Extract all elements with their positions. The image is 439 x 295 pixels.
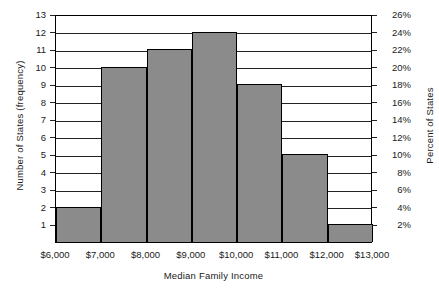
y-axis-right-tick-mark <box>372 102 377 103</box>
y-axis-left-tick-mark <box>50 172 55 173</box>
y-axis-left-tick-mark <box>50 102 55 103</box>
y-axis-left-tick-mark <box>50 225 55 226</box>
histogram-bar <box>282 154 327 242</box>
histogram-bar <box>101 67 146 242</box>
y-axis-right-title: Percent of States <box>424 3 438 248</box>
y-axis-left-tick-label: 2 <box>4 202 46 214</box>
y-axis-left-tick-label: 9 <box>4 79 46 91</box>
y-axis-left-tick-mark <box>50 15 55 16</box>
y-axis-left-tick-mark <box>50 50 55 51</box>
histogram-bar <box>147 49 192 242</box>
y-axis-left-tick-mark <box>50 85 55 86</box>
y-axis-left-tick-label: 6 <box>4 132 46 144</box>
y-axis-left-tick-mark <box>50 120 55 121</box>
y-axis-left-tick-label: 10 <box>4 62 46 74</box>
histogram-chart: Number of States (frequency) Percent of … <box>0 0 439 295</box>
y-axis-left-tick-mark <box>50 67 55 68</box>
histogram-bar <box>328 224 373 242</box>
y-axis-right-tick-label: 4% <box>377 202 411 214</box>
y-axis-right-tick-label: 16% <box>377 97 411 109</box>
histogram-bar <box>192 32 237 242</box>
y-axis-right-tick-label: 10% <box>377 149 411 161</box>
plot-inner <box>56 16 371 242</box>
y-axis-right-tick-label: 12% <box>377 132 411 144</box>
y-axis-left-tick-label: 11 <box>4 44 46 56</box>
y-axis-left-tick-label: 3 <box>4 184 46 196</box>
y-axis-right-tick-mark <box>372 207 377 208</box>
y-axis-right-tick-mark <box>372 225 377 226</box>
y-axis-left-tick-mark <box>50 155 55 156</box>
y-axis-right-tick-label: 14% <box>377 114 411 126</box>
y-axis-left-tick-label: 7 <box>4 114 46 126</box>
y-axis-left-tick-label: 4 <box>4 167 46 179</box>
histogram-bar <box>56 207 101 242</box>
y-axis-right-tick-mark <box>372 32 377 33</box>
y-axis-right-tick-mark <box>372 172 377 173</box>
x-axis-title: Median Family Income <box>55 270 372 281</box>
y-axis-left-tick-label: 13 <box>4 9 46 21</box>
y-axis-left-tick-mark <box>50 207 55 208</box>
y-axis-right-tick-mark <box>372 137 377 138</box>
y-axis-right-tick-label: 8% <box>377 167 411 179</box>
y-axis-left-tick-label: 8 <box>4 97 46 109</box>
y-axis-right-tick-label: 2% <box>377 219 411 231</box>
y-axis-right-tick-label: 6% <box>377 184 411 196</box>
histogram-bar <box>237 84 282 242</box>
y-axis-left-tick-mark <box>50 190 55 191</box>
y-axis-right-tick-label: 24% <box>377 27 411 39</box>
y-axis-right-tick-mark <box>372 155 377 156</box>
x-axis-tick-label: $13,000 <box>344 248 400 261</box>
y-axis-right-tick-label: 22% <box>377 44 411 56</box>
y-axis-right-tick-label: 18% <box>377 79 411 91</box>
y-axis-right-tick-mark <box>372 15 377 16</box>
y-axis-right-tick-mark <box>372 120 377 121</box>
y-axis-left-tick-label: 12 <box>4 27 46 39</box>
y-axis-right-tick-mark <box>372 190 377 191</box>
plot-area <box>55 15 372 243</box>
y-axis-left-tick-mark <box>50 32 55 33</box>
y-axis-right-tick-label: 20% <box>377 62 411 74</box>
y-axis-left-tick-label: 5 <box>4 149 46 161</box>
y-axis-right-tick-mark <box>372 67 377 68</box>
y-axis-left-tick-label: 1 <box>4 219 46 231</box>
y-axis-right-tick-label: 26% <box>377 9 411 21</box>
y-axis-right-tick-mark <box>372 50 377 51</box>
y-axis-right-tick-mark <box>372 85 377 86</box>
y-axis-left-tick-mark <box>50 137 55 138</box>
